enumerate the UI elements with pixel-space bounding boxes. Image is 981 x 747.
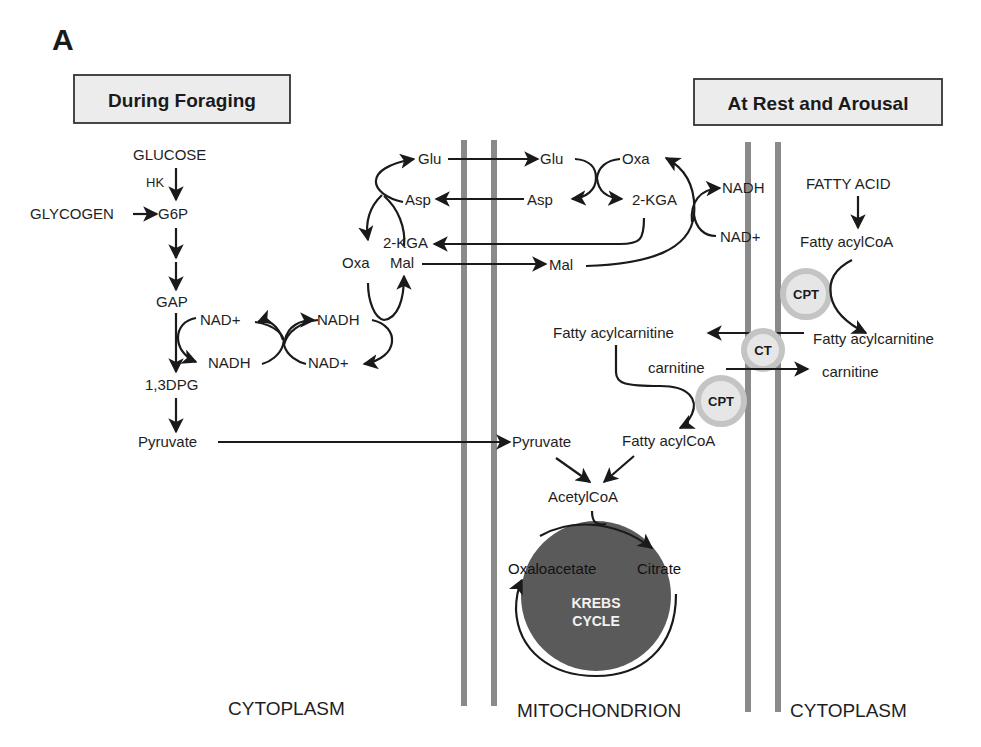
glycolysis-pathway: GLUCOSE HK GLYCOGEN G6P GAP 1,3DPG Pyruv… (30, 146, 510, 450)
gap-label: GAP (156, 293, 188, 310)
panel-label: A (52, 23, 74, 56)
nad-plus-mito-label: NAD+ (720, 228, 761, 245)
cpt-outer-enzyme: CPT (783, 271, 829, 317)
region-mitochondrion: MITOCHONDRION (517, 700, 681, 721)
region-cytoplasm-left: CYTOPLASM (228, 698, 345, 719)
nad-plus-2-label: NAD+ (308, 354, 349, 371)
nadh-1-label: NADH (208, 354, 251, 371)
fatty-acid-label: FATTY ACID (806, 175, 891, 192)
ct-label: CT (754, 343, 771, 358)
fatty-acylcoa-cyto-label: Fatty acylCoA (800, 233, 893, 250)
nad-shuttle-cytoplasm: NAD+ NADH NADH NAD+ (178, 311, 392, 371)
mitochondrial-matrix: Pyruvate AcetylCoA Oxaloacetate Citrate … (508, 433, 681, 676)
oxa-cyto-label: Oxa (342, 254, 370, 271)
krebs-cycle: Oxaloacetate Citrate KREBS CYCLE (508, 511, 681, 676)
asp-mito-label: Asp (527, 191, 553, 208)
carnitine-mito-label: carnitine (648, 359, 705, 376)
mal-mito-label: Mal (549, 256, 573, 273)
cpt-inner-enzyme: CPT (698, 378, 744, 424)
nadh-mito-label: NADH (722, 179, 765, 196)
hk-label: HK (146, 175, 164, 190)
cpt-outer-label: CPT (793, 287, 819, 302)
fatty-acylcarnitine-mito-label: Fatty acylcarnitine (553, 324, 674, 341)
kga-cyto-label: 2-KGA (383, 234, 428, 251)
krebs-line1: KREBS (571, 595, 620, 611)
nad-plus-1-label: NAD+ (200, 311, 241, 328)
oxaloacetate-label: Oxaloacetate (508, 560, 596, 577)
mal-cyto-label: Mal (390, 254, 414, 271)
cpt-inner-label: CPT (708, 394, 734, 409)
g6p-label: G6P (158, 205, 188, 222)
acetylcoa-label: AcetylCoA (548, 488, 618, 505)
header-left-text: During Foraging (108, 90, 256, 111)
asp-cyto-label: Asp (405, 191, 431, 208)
glu-mito-label: Glu (540, 150, 563, 167)
glucose-label: GLUCOSE (133, 146, 206, 163)
glycogen-label: GLYCOGEN (30, 205, 114, 222)
fatty-acid-pathway: FATTY ACID Fatty acylCoA CPT Fatty acylc… (553, 175, 934, 449)
fatty-acylcarnitine-cyto-label: Fatty acylcarnitine (813, 330, 934, 347)
oxa-mito-label: Oxa (622, 150, 650, 167)
kga-mito-label: 2-KGA (632, 191, 677, 208)
metabolic-pathway-diagram: A During Foraging At Rest and Arousal GL… (0, 0, 981, 747)
dpg-label: 1,3DPG (145, 376, 198, 393)
header-at-rest-and-arousal: At Rest and Arousal (694, 79, 942, 125)
citrate-label: Citrate (637, 560, 681, 577)
pyruvate-cyto-label: Pyruvate (138, 433, 197, 450)
malate-aspartate-shuttle-mito: Glu Oxa Asp 2-KGA Mal NADH NAD+ (527, 150, 765, 273)
nadh-2-label: NADH (317, 311, 360, 328)
region-cytoplasm-right: CYTOPLASM (790, 700, 907, 721)
glu-cyto-label: Glu (418, 150, 441, 167)
krebs-line2: CYCLE (572, 613, 619, 629)
fatty-acylcoa-mito-label: Fatty acylCoA (622, 432, 715, 449)
transport-lines (422, 159, 644, 264)
header-during-foraging: During Foraging (74, 75, 290, 123)
malate-aspartate-shuttle-cytoplasm: Glu Asp 2-KGA Oxa Mal (342, 150, 441, 320)
carnitine-cyto-label: carnitine (822, 363, 879, 380)
pyruvate-mito-label: Pyruvate (512, 433, 571, 450)
header-right-text: At Rest and Arousal (728, 93, 909, 114)
ct-transporter: CT (744, 331, 782, 369)
